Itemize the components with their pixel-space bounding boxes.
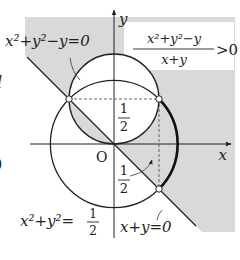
large-circle-equation-label: x²+y²= [20, 212, 74, 230]
large-circle-rhs-num: 1 [89, 207, 97, 221]
half-label-upper-num: 1 [120, 101, 128, 116]
half-label-upper-den: 2 [120, 119, 128, 134]
region-diagram: x²+y²−y=0 y x O x²+y²−y x+y >0 1 2 1 2 x… [0, 0, 240, 260]
open-point-left-intersection [66, 96, 72, 102]
line-equation-label: x+y=0 [120, 218, 172, 236]
half-label-lower-num: 1 [120, 163, 128, 178]
cropped-glyph-bottom: 0 [0, 155, 2, 174]
inequality-denominator: x+y [161, 52, 187, 67]
inequality-relation: >0 [216, 41, 238, 59]
inequality-numerator: x²+y²−y [147, 31, 202, 46]
large-circle-rhs-den: 2 [89, 224, 97, 238]
open-point-right-intersection [156, 96, 162, 102]
half-label-lower-den: 2 [120, 181, 128, 196]
origin-label: O [96, 149, 107, 165]
open-point-lower-intersection [156, 186, 162, 192]
small-circle-equation-label: x²+y²−y=0 [5, 32, 90, 50]
x-axis-label: x [219, 146, 228, 164]
y-axis-label: y [118, 10, 128, 28]
cropped-glyph-top: l [0, 73, 2, 92]
